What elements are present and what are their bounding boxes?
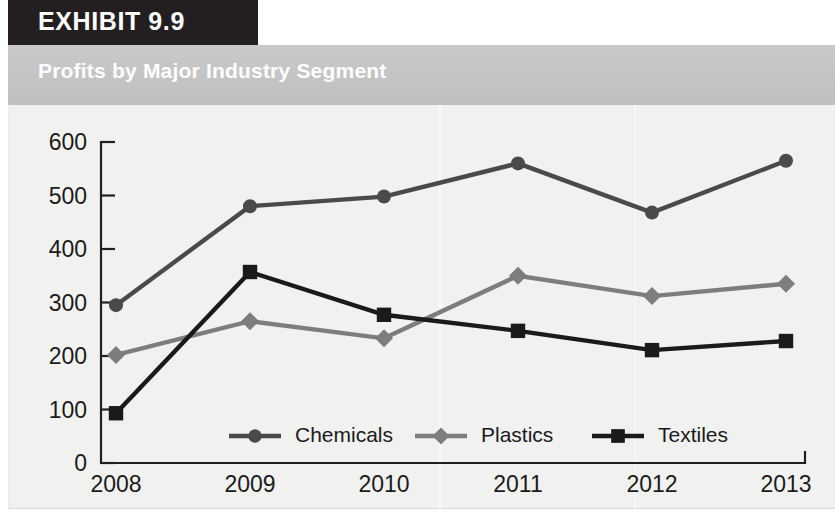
x-tick-label: 2012 [626,471,677,497]
data-point-circle-marker [109,298,123,312]
data-point-square-marker [109,406,123,420]
data-point-diamond-marker [107,346,125,364]
chart-series [107,154,795,421]
data-point-circle-marker [243,199,257,213]
y-tick-label: 100 [49,397,87,423]
data-point-square-marker [645,343,659,357]
axis-lines [101,142,805,463]
data-point-circle-marker [779,154,793,168]
chart-legend: ChemicalsPlasticsTextiles [229,423,728,446]
data-point-diamond-marker [643,287,661,305]
x-axis-ticks: 200820092010201120122013 [90,471,811,497]
y-tick-label: 200 [49,343,87,369]
y-tick-label: 400 [49,236,87,262]
data-point-diamond-marker [432,427,449,444]
x-tick-label: 2013 [760,471,811,497]
legend-label-chemicals: Chemicals [295,423,393,446]
exhibit-tag-label: EXHIBIT 9.9 [38,7,185,36]
chart-title: Profits by Major Industry Segment [38,59,387,83]
exhibit-tag: EXHIBIT 9.9 [8,0,258,45]
data-point-circle-marker [248,429,261,442]
data-point-square-marker [611,429,625,443]
data-point-square-marker [511,324,525,338]
x-tick-label: 2011 [493,471,542,497]
series-line-plastics [116,276,786,355]
y-tick-label: 600 [49,129,87,155]
data-point-diamond-marker [241,312,259,330]
y-tick-label: 300 [49,290,87,316]
x-tick-label: 2008 [90,471,141,497]
data-point-square-marker [779,334,793,348]
y-axis-ticks: 0100200300400500600 [49,129,115,476]
legend-label-textiles: Textiles [658,423,728,446]
exhibit-figure: EXHIBIT 9.9 Profits by Major Industry Se… [0,0,835,522]
chart-title-banner: Profits by Major Industry Segment [8,45,835,105]
chart-plot-panel: 0100200300400500600 20082009201020112012… [8,105,835,509]
series-line-chemicals [116,161,786,305]
y-tick-label: 500 [49,183,87,209]
legend-label-plastics: Plastics [481,423,553,446]
data-point-square-marker [243,265,257,279]
data-point-square-marker [377,308,391,322]
data-point-circle-marker [511,156,525,170]
x-tick-label: 2009 [224,471,275,497]
y-tick-label: 0 [74,450,87,476]
data-point-circle-marker [377,190,391,204]
chart-axes [101,142,805,463]
data-point-diamond-marker [509,267,527,285]
data-point-circle-marker [645,206,659,220]
line-chart: 0100200300400500600 20082009201020112012… [9,105,835,509]
data-point-diamond-marker [375,329,393,347]
x-tick-label: 2010 [358,471,409,497]
data-point-diamond-marker [777,275,795,293]
